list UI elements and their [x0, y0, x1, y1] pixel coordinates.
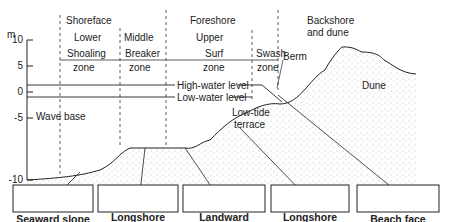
label-wave-base: Wave base [36, 111, 86, 122]
label-upper: Upper [196, 32, 223, 43]
tick-minus10: -10 [3, 175, 23, 185]
vertical-axis [27, 40, 33, 180]
label-lower: Lower [74, 32, 101, 43]
label-swash: Swash [256, 48, 286, 59]
label-surf: Surf [205, 48, 223, 59]
tick-0: 0 [3, 87, 23, 97]
inset-boxes [13, 185, 439, 212]
inset-label-seaward-slope: Seaward slope [0, 214, 106, 222]
label-shoaling-zone: zone [73, 62, 95, 73]
label-high-water: High-water level [177, 80, 249, 91]
label-breaker: Breaker [125, 48, 160, 59]
label-backshore-2: and dune [307, 27, 349, 38]
inset-label-longshore-trough-1: Longshore [271, 212, 349, 222]
label-terrace: terrace [234, 119, 265, 130]
label-shoreface: Shoreface [66, 15, 112, 26]
label-berm: Berm [283, 51, 307, 62]
inset-label-beach-face: Beach face [357, 214, 439, 222]
inset-label-longshore-bar-1: Longshore [98, 212, 178, 222]
label-swash-zone: zone [257, 62, 279, 73]
tick-minus5: -5 [3, 113, 23, 123]
tick-10: 10 [3, 35, 23, 45]
label-breaker-zone: zone [129, 62, 151, 73]
label-backshore-1: Backshore [307, 15, 354, 26]
label-foreshore: Foreshore [190, 15, 236, 26]
tick-5: 5 [3, 61, 23, 71]
label-shoaling: Shoaling [67, 48, 106, 59]
label-middle: Middle [124, 32, 153, 43]
label-low-water: Low-water level [177, 92, 246, 103]
inset-label-landward-1: Landward [183, 212, 265, 222]
label-dune: Dune [362, 80, 386, 91]
label-low-tide: Low-tide [232, 107, 270, 118]
label-surf-zone: zone [203, 62, 225, 73]
